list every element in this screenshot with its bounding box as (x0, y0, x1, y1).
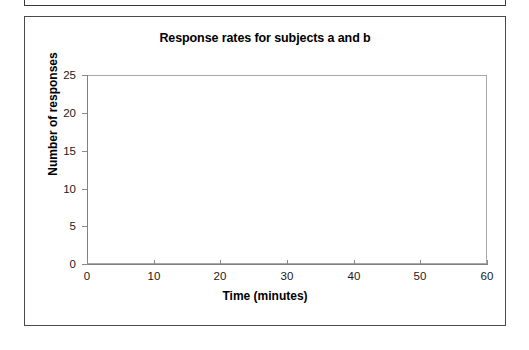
y-tick-label: 20 (36, 108, 76, 120)
chart-title: Response rates for subjects a and b (25, 31, 505, 45)
x-tick-mark (420, 260, 421, 265)
plot-area (87, 75, 487, 264)
y-tick-mark (82, 113, 87, 114)
x-tick-mark (87, 260, 88, 265)
y-tick-mark (82, 189, 87, 190)
x-tick-label: 30 (267, 271, 307, 283)
chart-container: Response rates for subjects a and b Numb… (24, 16, 506, 326)
y-tick-mark (82, 75, 87, 76)
x-tick-mark (487, 260, 488, 265)
y-axis-line (87, 75, 88, 265)
x-tick-mark (220, 260, 221, 265)
x-tick-mark (354, 260, 355, 265)
top-border-fragment (24, 0, 506, 6)
y-tick-label: 15 (36, 146, 76, 158)
x-axis-title: Time (minutes) (25, 289, 505, 303)
x-tick-label: 50 (400, 271, 440, 283)
x-tick-label: 10 (134, 271, 174, 283)
y-tick-label: 25 (36, 70, 76, 82)
y-tick-label: 5 (36, 221, 76, 233)
x-tick-label: 60 (467, 271, 507, 283)
y-tick-mark (82, 226, 87, 227)
x-tick-label: 20 (200, 271, 240, 283)
y-tick-label: 0 (36, 259, 76, 271)
y-tick-label: 10 (36, 184, 76, 196)
x-tick-mark (154, 260, 155, 265)
y-tick-mark (82, 151, 87, 152)
x-tick-label: 40 (334, 271, 374, 283)
x-tick-mark (287, 260, 288, 265)
x-tick-label: 0 (67, 271, 107, 283)
